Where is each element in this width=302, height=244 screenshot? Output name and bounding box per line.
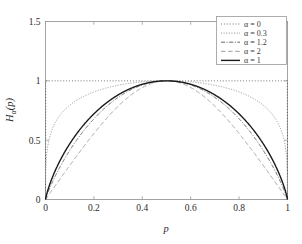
renyi-entropy-chart: 00.20.40.60.81 00.511.5 p Hα(p) α = 0α =… [0,0,302,244]
x-tick-label-1: 0.2 [88,203,100,213]
y-axis-title: Hα(p) [4,98,18,123]
svg-text:Hα(p): Hα(p) [4,98,18,123]
legend: α = 0α = 0.3α = 1.2α = 2α = 1 [217,17,287,66]
x-tick-label-0: 0 [43,203,48,213]
y-tick-label-1: 0.5 [29,136,41,146]
x-axis-title: p [162,223,168,234]
x-tick-label-5: 1 [285,203,290,213]
legend-label-1: α = 0.3 [244,29,267,38]
legend-label-2: α = 1.2 [244,38,267,47]
y-tick-label-2: 1 [36,76,41,86]
y-axis-title-argument: (p) [4,98,16,111]
x-tick-label-2: 0.4 [136,203,148,213]
x-tick-label-4: 0.8 [233,203,245,213]
legend-label-3: α = 2 [244,47,261,56]
x-tick-label-3: 0.6 [185,203,197,213]
figure-panel: 00.20.40.60.81 00.511.5 p Hα(p) α = 0α =… [0,0,302,244]
y-tick-label-0: 0 [36,195,41,205]
legend-label-4: α = 1 [244,56,261,65]
x-axis-tick-labels: 00.20.40.60.81 [43,203,290,213]
y-tick-label-3: 1.5 [29,17,41,27]
y-axis-tick-labels: 00.511.5 [29,17,41,205]
legend-label-0: α = 0 [244,20,261,29]
